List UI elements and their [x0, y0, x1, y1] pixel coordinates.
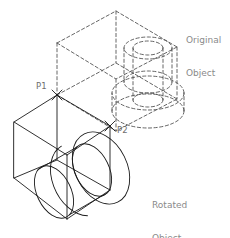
label-rotated-line2: Object: [152, 233, 187, 238]
label-original-line1: Original: [186, 35, 221, 46]
label-rotated-object: Rotated Object: [152, 178, 187, 238]
label-rotated-line1: Rotated: [152, 200, 187, 211]
drawing-canvas: Original Object Rotated Object P1 P2: [0, 0, 230, 238]
p1-marker-icon: [52, 90, 62, 100]
label-original-object: Original Object: [186, 13, 221, 101]
p2-marker-icon: [105, 121, 115, 131]
label-point-p2: P2: [117, 126, 128, 135]
label-original-line2: Object: [186, 68, 221, 79]
label-point-p1: P1: [36, 82, 47, 91]
